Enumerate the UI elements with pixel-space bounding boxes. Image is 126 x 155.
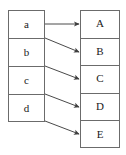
arrow-c-to-D — [45, 94, 79, 107]
domain-cell-label: a — [24, 19, 29, 30]
domain-cell-d[interactable]: d — [8, 94, 45, 122]
domain-cell-label: d — [24, 103, 30, 114]
codomain-cell-label: D — [96, 101, 104, 112]
codomain-column-divider — [80, 38, 120, 39]
domain-cell-label: c — [24, 75, 29, 86]
arrow-a-to-B — [45, 38, 79, 52]
codomain-cell-d[interactable]: D — [80, 93, 120, 121]
mapping-diagram: abcdABCDE — [0, 0, 126, 155]
codomain-cell-label: E — [97, 129, 104, 140]
codomain-cell-e[interactable]: E — [80, 120, 120, 148]
domain-column-divider — [8, 38, 45, 39]
codomain-cell-label: A — [96, 18, 104, 29]
codomain-cell-a[interactable]: A — [80, 10, 120, 38]
domain-cell-c[interactable]: c — [8, 66, 45, 94]
domain-cell-a[interactable]: a — [8, 10, 45, 38]
codomain-cell-b[interactable]: B — [80, 38, 120, 66]
domain-cell-label: b — [24, 47, 30, 58]
domain-column-divider — [8, 66, 45, 67]
domain-cell-b[interactable]: b — [8, 38, 45, 66]
codomain-cell-c[interactable]: C — [80, 65, 120, 93]
domain-column-divider — [8, 94, 45, 95]
arrow-b-to-C — [45, 66, 79, 79]
codomain-column-divider — [80, 120, 120, 121]
codomain-column-divider — [80, 93, 120, 94]
codomain-column-divider — [80, 65, 120, 66]
codomain-cell-label: C — [96, 73, 103, 84]
codomain-cell-label: B — [96, 46, 103, 57]
arrow-d-to-E — [45, 121, 79, 134]
